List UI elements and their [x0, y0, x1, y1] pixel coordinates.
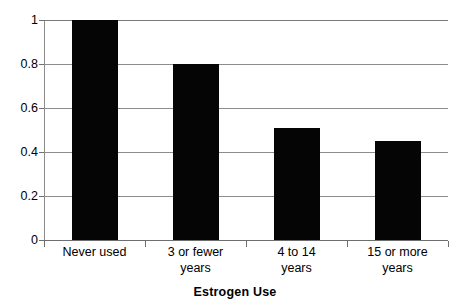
x-label-line: years — [347, 261, 448, 277]
x-label-never-used: Never used — [44, 245, 145, 261]
y-tick-label-0.4: 0.4 — [2, 146, 38, 158]
bar-3-or-fewer-years — [173, 64, 219, 240]
y-tick-label-0: 0 — [2, 234, 38, 246]
x-label-line: years — [145, 261, 246, 277]
x-label-line: 3 or fewer — [145, 245, 246, 261]
x-label-line: Never used — [44, 245, 145, 261]
x-label-line: 15 or more — [347, 245, 448, 261]
y-tick-label-1: 1 — [2, 14, 38, 26]
plot-area — [44, 20, 448, 240]
x-label-3-or-fewer-years: 3 or fewer years — [145, 245, 246, 276]
y-tick-label-0.8: 0.8 — [2, 58, 38, 70]
bar-never-used — [72, 20, 118, 240]
x-label-4-to-14-years: 4 to 14 years — [246, 245, 347, 276]
bar-chart: 1 0.8 0.6 0.4 0.2 0 Never used 3 or fewe… — [0, 0, 458, 308]
y-tick-label-0.2: 0.2 — [2, 190, 38, 202]
x-label-15-or-more-years: 15 or more years — [347, 245, 448, 276]
x-label-line: 4 to 14 — [246, 245, 347, 261]
x-tick-mark-4 — [448, 241, 449, 247]
bar-4-to-14-years — [274, 128, 320, 240]
y-tick-label-0.6: 0.6 — [2, 102, 38, 114]
bar-15-or-more-years — [375, 141, 421, 240]
x-axis-title: Estrogen Use — [0, 285, 458, 299]
y-axis-tick-labels: 1 0.8 0.6 0.4 0.2 0 — [0, 0, 38, 308]
x-label-line: years — [246, 261, 347, 277]
